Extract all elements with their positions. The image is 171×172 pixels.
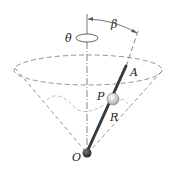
cone-rod-diagram: θ̇ β A P R O [0,0,171,172]
pivot-O [83,149,92,158]
theta-dot-label: θ̇ [65,32,72,45]
label-A: A [129,66,138,79]
beta-label: β [110,18,117,31]
rotation-arrow-icon [76,34,98,42]
collar-path-curve-right [120,100,130,108]
diagram-svg: θ̇ β A P R O [0,0,171,172]
label-P: P [96,90,105,103]
beta-arrow-left-icon [88,17,93,21]
beta-reference-line [125,31,138,70]
label-O: O [72,151,81,164]
collar-P [107,93,119,105]
cone-top-ellipse [14,55,162,85]
label-R: R [109,111,118,124]
collar-path-curve [47,96,104,112]
beta-arrow-right-icon [131,29,137,33]
rod [87,66,126,152]
cone-right-side [89,72,161,152]
cone-left-side [15,68,86,152]
